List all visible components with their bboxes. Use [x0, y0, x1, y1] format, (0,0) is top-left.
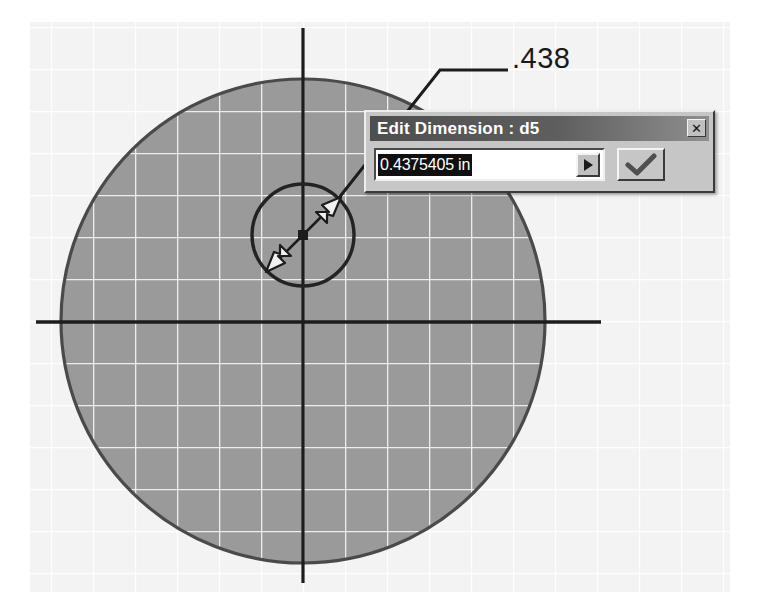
dimension-value-combobox[interactable]: 0.4375405 in [374, 148, 605, 181]
dialog-body: 0.4375405 in [370, 145, 709, 187]
dimension-value-input[interactable]: 0.4375405 in [378, 154, 472, 176]
close-icon: ✕ [691, 122, 702, 135]
combo-dropdown-button[interactable] [576, 153, 600, 177]
checkmark-icon [624, 153, 658, 177]
close-button[interactable]: ✕ [687, 119, 706, 137]
dialog-title: Edit Dimension : d5 [377, 119, 539, 139]
sketch-canvas[interactable] [0, 0, 757, 607]
chevron-right-icon [584, 159, 593, 171]
dimension-callout-label: .438 [512, 42, 570, 75]
edit-dimension-dialog[interactable]: Edit Dimension : d5 ✕ 0.4375405 in [364, 110, 715, 193]
cad-sketch-screen: .438 Edit Dimension : d5 ✕ 0.4375405 in [0, 0, 757, 607]
accept-button[interactable] [617, 148, 665, 181]
dialog-titlebar[interactable]: Edit Dimension : d5 ✕ [370, 116, 709, 141]
